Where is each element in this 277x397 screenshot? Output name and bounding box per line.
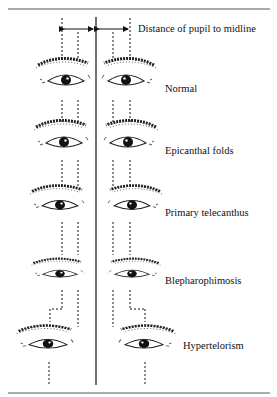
row-label-normal: Normal [165, 84, 197, 95]
eye-spacing-diagram [0, 0, 277, 397]
header-label: Distance of pupil to midline [138, 24, 256, 35]
row-label-hypertelorism: Hypertelorism [183, 341, 244, 352]
row-label-blepharophimosis: Blepharophimosis [165, 276, 241, 287]
row-label-epicanthal: Epicanthal folds [165, 146, 234, 157]
row-label-telecanthus: Primary telecanthus [165, 208, 249, 219]
